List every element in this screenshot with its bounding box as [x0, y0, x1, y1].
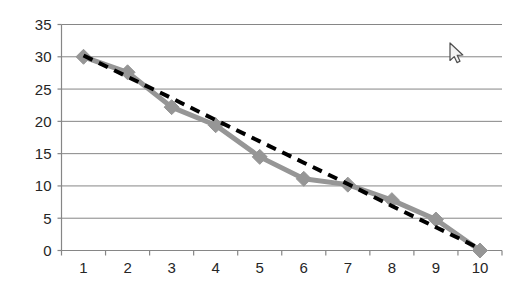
x-axis-tick-label: 7 [344, 259, 352, 276]
y-axis-tick-label: 10 [35, 177, 52, 194]
x-axis-tick-label: 10 [472, 259, 489, 276]
x-axis-tick-label: 3 [167, 259, 175, 276]
x-axis-tick-label: 8 [388, 259, 396, 276]
x-axis-tick-label: 6 [300, 259, 308, 276]
y-axis-tick-label: 0 [43, 242, 51, 259]
y-axis-tick-label: 20 [35, 113, 52, 130]
plot-background [0, 0, 528, 299]
x-axis-tick-label: 4 [212, 259, 220, 276]
x-axis-tick-label: 1 [79, 259, 87, 276]
y-axis-tick-label: 5 [43, 210, 51, 227]
x-axis-tick-label: 2 [123, 259, 131, 276]
y-axis-tick-label: 25 [35, 81, 52, 98]
y-axis-tick-label: 35 [35, 16, 52, 33]
x-axis-tick-label: 5 [256, 259, 264, 276]
x-axis-tick-label: 9 [432, 259, 440, 276]
y-axis-tick-label: 30 [35, 48, 52, 65]
line-chart: 05101520253035 12345678910 [0, 0, 528, 299]
y-axis-tick-label: 15 [35, 145, 52, 162]
chart-container: 05101520253035 12345678910 [0, 0, 528, 299]
